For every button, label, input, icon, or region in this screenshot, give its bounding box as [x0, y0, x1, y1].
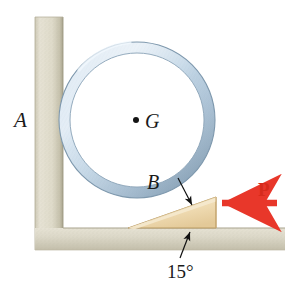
physics-figure: A G B P 15°	[0, 0, 285, 292]
wedge-block	[128, 197, 216, 230]
horizontal-floor	[35, 228, 285, 250]
center-dot-icon	[133, 117, 139, 123]
contact-label-b: B	[147, 172, 159, 192]
angle-label-15deg: 15°	[167, 262, 194, 281]
figure-canvas	[0, 0, 285, 292]
wall-label-a: A	[14, 110, 27, 131]
center-label-g: G	[145, 111, 159, 131]
force-label-p: P	[258, 180, 270, 199]
vertical-wall	[35, 17, 63, 250]
